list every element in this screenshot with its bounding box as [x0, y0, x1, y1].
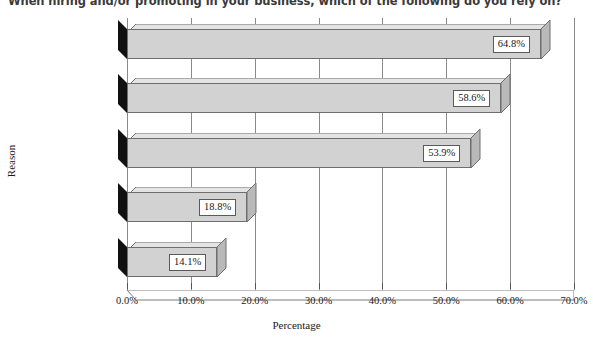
y-axis-title: Reason [5, 131, 17, 191]
x-tick-mark [510, 283, 511, 289]
bar-side-face [471, 129, 480, 168]
x-tick-label: 20.0% [225, 295, 285, 306]
x-tick-mark [319, 283, 320, 289]
bar-side-face [501, 74, 510, 113]
x-tick-label: 60.0% [480, 295, 540, 306]
bar-top-face [127, 20, 550, 29]
bar-value-label: 53.9% [423, 145, 460, 162]
bar-value-label: 58.6% [453, 90, 490, 107]
bar-top-face [127, 129, 480, 138]
bar-side-face [541, 20, 550, 59]
x-tick-mark [382, 283, 383, 289]
x-tick-mark [191, 283, 192, 289]
x-tick-mark [446, 283, 447, 289]
x-tick-label: 50.0% [416, 295, 476, 306]
chart-title: When hiring and/or promoting in your bus… [8, 0, 588, 8]
bar[interactable] [127, 29, 541, 59]
bar-side-face [217, 238, 226, 277]
x-tick-label: 10.0% [161, 295, 221, 306]
bar[interactable] [127, 83, 501, 113]
x-tick-label: 30.0% [289, 295, 349, 306]
x-tick-label: 70.0% [544, 295, 593, 306]
bar-value-label: 14.1% [169, 254, 206, 271]
bar-top-face [127, 74, 510, 83]
bar-front-face [127, 138, 471, 168]
x-axis-title: Percentage [0, 319, 593, 331]
gridline [574, 18, 575, 290]
x-tick-mark [255, 283, 256, 289]
x-tick-mark [127, 283, 128, 289]
bar-front-face [127, 29, 541, 59]
x-tick-label: 40.0% [352, 295, 412, 306]
x-tick-mark [574, 283, 575, 289]
bar-value-label: 64.8% [493, 36, 530, 53]
x-tick-label: 0.0% [97, 295, 157, 306]
bar-side-face [247, 183, 256, 222]
bar-top-face [127, 183, 256, 192]
bar[interactable] [127, 138, 471, 168]
bar-value-label: 18.8% [199, 199, 236, 216]
bar-top-face [127, 238, 226, 247]
bar-chart: When hiring and/or promoting in your bus… [0, 0, 593, 338]
bar-front-face [127, 83, 501, 113]
